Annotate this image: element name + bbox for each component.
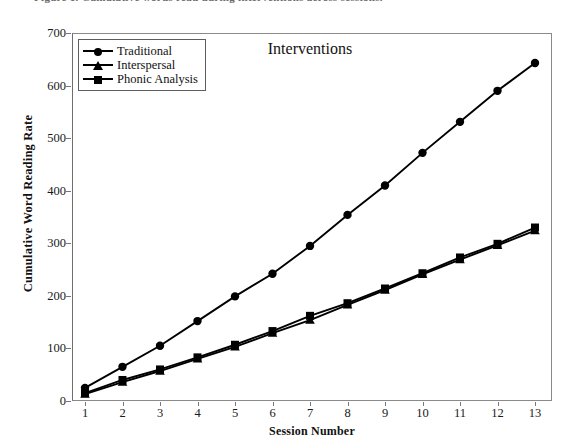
- data-point: [381, 181, 389, 189]
- x-tick-mark: [535, 402, 536, 406]
- x-tick-label: 11: [446, 406, 474, 421]
- legend-label: Traditional: [117, 44, 172, 58]
- data-point: [193, 317, 201, 325]
- data-point: [156, 365, 164, 373]
- x-tick-mark: [348, 402, 349, 406]
- data-point: [231, 292, 239, 300]
- legend-item-traditional: Traditional: [83, 44, 198, 58]
- x-tick-label: 3: [146, 406, 174, 421]
- data-point: [343, 211, 351, 219]
- y-tick-mark: [66, 348, 71, 349]
- legend-marker-square-icon: [83, 73, 113, 85]
- data-point: [456, 253, 464, 261]
- x-tick-label: 4: [184, 406, 212, 421]
- x-tick-label: 12: [484, 406, 512, 421]
- data-point: [344, 299, 352, 307]
- x-tick-label: 10: [409, 406, 437, 421]
- data-point: [306, 242, 314, 250]
- data-point: [381, 284, 389, 292]
- x-tick-mark: [160, 402, 161, 406]
- chart-legend: Traditional Interspersal Phonic Analysis: [78, 39, 206, 91]
- data-point: [81, 389, 89, 397]
- x-tick-label: 2: [109, 406, 137, 421]
- figure-container: Cumulative Word Reading Rate 01002003004…: [0, 0, 581, 446]
- y-tick-mark: [66, 243, 71, 244]
- y-tick-mark: [66, 138, 71, 139]
- data-point: [531, 224, 539, 232]
- x-tick-label: 13: [521, 406, 549, 421]
- x-tick-mark: [235, 402, 236, 406]
- series-line: [85, 63, 535, 388]
- y-tick-mark: [66, 296, 71, 297]
- x-tick-mark: [123, 402, 124, 406]
- data-point: [531, 59, 539, 67]
- legend-label: Phonic Analysis: [117, 72, 198, 86]
- x-tick-mark: [385, 402, 386, 406]
- series-traditional: [81, 59, 539, 392]
- data-point: [268, 270, 276, 278]
- chart-title: Interventions: [210, 40, 410, 58]
- x-tick-mark: [273, 402, 274, 406]
- x-tick-mark: [460, 402, 461, 406]
- x-axis-title: Session Number: [72, 424, 552, 439]
- data-point: [156, 342, 164, 350]
- x-tick-label: 9: [371, 406, 399, 421]
- data-point: [194, 353, 202, 361]
- x-tick-mark: [198, 402, 199, 406]
- legend-item-interspersal: Interspersal: [83, 58, 198, 72]
- x-tick-label: 8: [334, 406, 362, 421]
- data-point: [269, 327, 277, 335]
- data-point: [418, 149, 426, 157]
- data-point: [306, 312, 314, 320]
- x-tick-mark: [85, 402, 86, 406]
- data-point: [456, 118, 464, 126]
- y-tick-mark: [66, 86, 71, 87]
- y-tick-mark: [66, 191, 71, 192]
- x-tick-label: 1: [71, 406, 99, 421]
- x-tick-mark: [310, 402, 311, 406]
- data-point: [231, 341, 239, 349]
- x-tick-mark: [498, 402, 499, 406]
- x-tick-label: 6: [259, 406, 287, 421]
- x-tick-label: 5: [221, 406, 249, 421]
- series-line: [85, 228, 535, 394]
- data-point: [494, 240, 502, 248]
- data-point: [493, 87, 501, 95]
- x-tick-mark: [423, 402, 424, 406]
- legend-item-phonic-analysis: Phonic Analysis: [83, 72, 198, 86]
- x-tick-label: 7: [296, 406, 324, 421]
- data-point: [118, 363, 126, 371]
- legend-marker-circle-icon: [83, 45, 113, 57]
- data-point: [119, 376, 127, 384]
- data-point: [419, 269, 427, 277]
- y-tick-mark: [66, 33, 71, 34]
- y-tick-mark: [66, 401, 71, 402]
- legend-label: Interspersal: [117, 58, 175, 72]
- legend-marker-triangle-icon: [83, 59, 113, 71]
